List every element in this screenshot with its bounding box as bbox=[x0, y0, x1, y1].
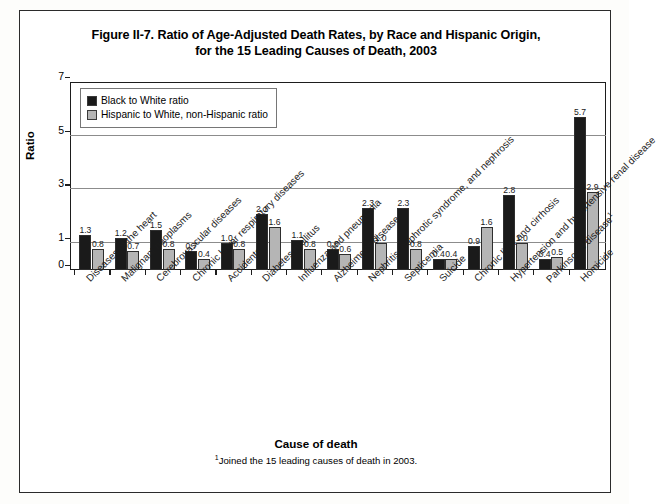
legend-label-hispanic-to-white: Hispanic to White, non-Hispanic ratio bbox=[101, 108, 268, 121]
figure-title-line-2: for the 15 Leading Causes of Death, 2003 bbox=[40, 43, 592, 59]
figure-title: Figure II-7. Ratio of Age-Adjusted Death… bbox=[40, 27, 592, 59]
y-tick-mark-7 bbox=[65, 77, 70, 78]
legend-entry-hispanic-to-white: Hispanic to White, non-Hispanic ratio bbox=[87, 108, 268, 121]
y-tick-label-0: 0 bbox=[46, 258, 64, 270]
legend-entry-black-to-white: Black to White ratio bbox=[87, 94, 268, 107]
bar-black-to-white: 0.9 bbox=[468, 246, 480, 270]
category-footnote-marker: 1 bbox=[606, 211, 614, 219]
bar-group: 0.40.4 bbox=[427, 82, 462, 270]
footnote-text: Joined the 15 leading causes of death in… bbox=[219, 455, 417, 466]
legend-swatch-hispanic-to-white bbox=[87, 110, 97, 120]
legend-label-black-to-white: Black to White ratio bbox=[101, 94, 189, 107]
bar-black-to-white: 1.3 bbox=[79, 235, 91, 270]
bar-value-label: 2.8 bbox=[503, 186, 515, 195]
y-tick-label-5: 5 bbox=[46, 124, 64, 136]
bar-value-label: 2.3 bbox=[397, 199, 409, 208]
legend-swatch-black-to-white bbox=[87, 96, 97, 106]
bar-value-label: 1.6 bbox=[481, 218, 493, 227]
figure-title-line-1: Figure II-7. Ratio of Age-Adjusted Death… bbox=[40, 27, 592, 43]
chart-legend: Black to White ratio Hispanic to White, … bbox=[80, 88, 277, 128]
bar-value-label: 5.7 bbox=[574, 108, 586, 117]
bar-value-label: 0.5 bbox=[551, 248, 563, 257]
figure-footnote: 1Joined the 15 leading causes of death i… bbox=[40, 454, 592, 466]
y-tick-label-1: 1 bbox=[46, 231, 64, 243]
x-axis-title: Cause of death bbox=[40, 437, 592, 450]
y-tick-label-3: 3 bbox=[46, 177, 64, 189]
y-axis-title: Ratio bbox=[24, 131, 36, 160]
bar-black-to-white: 2.8 bbox=[503, 195, 515, 270]
y-tick-label-7: 7 bbox=[46, 70, 64, 82]
bar-value-label: 0.8 bbox=[92, 240, 104, 249]
bar-value-label: 1.6 bbox=[269, 218, 281, 227]
bar-value-label: 0.9 bbox=[468, 237, 480, 246]
bar-value-label: 1.3 bbox=[79, 226, 91, 235]
